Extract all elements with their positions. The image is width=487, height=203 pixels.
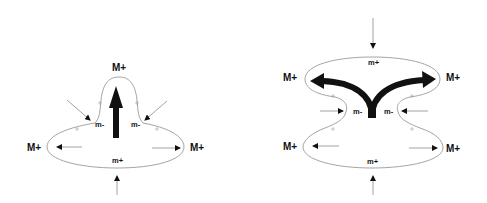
- big-up-arrow-icon: [109, 86, 123, 138]
- label-upper-left-M-plus: M+: [283, 72, 297, 83]
- label-left-M-plus: M+: [27, 142, 41, 153]
- label-neck-right-m-minus: m-: [131, 120, 141, 129]
- label-waist-right-m-minus: m-: [384, 107, 394, 116]
- inflow-arrow-right-icon: [145, 101, 167, 120]
- label-top-M-plus: M+: [112, 62, 126, 73]
- label-waist-left-m-minus: m-: [353, 107, 363, 116]
- label-neck-left-m-minus: m-: [95, 120, 105, 129]
- label-right-M-plus: M+: [190, 142, 204, 153]
- left-panel: M+ M+ M+ m- m- m+: [27, 62, 204, 195]
- flow-marker: [332, 128, 334, 130]
- label-lower-right-M-plus: M+: [446, 143, 460, 154]
- label-bottom-m-plus: m+: [112, 156, 124, 165]
- label-top-m-plus: m+: [368, 58, 380, 67]
- label-upper-right-M-plus: M+: [446, 72, 460, 83]
- label-bottom-m-plus: m+: [367, 157, 379, 166]
- inflow-arrow-left-icon: [67, 100, 90, 120]
- diagram-canvas: M+ M+ M+ m- m- m+ M+ M+: [0, 0, 487, 203]
- right-panel: M+ M+ M+ M+ m+ m- m- m+: [283, 18, 460, 195]
- flow-marker: [76, 128, 78, 130]
- label-lower-left-M-plus: M+: [283, 141, 297, 152]
- flow-marker: [411, 128, 413, 130]
- flow-marker: [156, 128, 158, 130]
